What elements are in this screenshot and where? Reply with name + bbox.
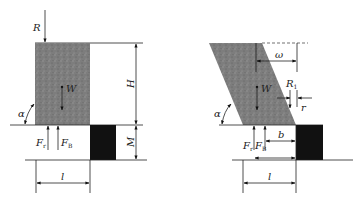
foundation-block (90, 125, 116, 160)
label-FB: FB (60, 137, 73, 149)
label-M: M (125, 136, 136, 148)
label-W: W (66, 83, 77, 94)
foundation-block (296, 125, 323, 160)
label-W: W (261, 83, 272, 94)
label-l: l (268, 171, 271, 182)
right-panel: ω W R1 r α Fr FB b l (209, 43, 353, 193)
angle-alpha-arc (222, 104, 231, 124)
label-omega: ω (275, 49, 283, 60)
label-H: H (125, 79, 136, 89)
label-alpha: α (18, 108, 25, 119)
label-l: l (61, 171, 64, 182)
angle-alpha-arc (25, 104, 34, 124)
sliding-block (35, 43, 90, 125)
label-Fr: Fr (242, 140, 253, 152)
label-b: b (278, 129, 284, 140)
force-diagram: R W α Fr FB H M l (0, 0, 361, 204)
label-R1: R1 (285, 78, 297, 90)
label-R: R (32, 22, 41, 33)
left-panel: R W α Fr FB H M l (10, 10, 147, 193)
label-alpha: α (214, 108, 221, 119)
label-Fr: Fr (35, 137, 46, 149)
label-r: r (301, 102, 307, 113)
